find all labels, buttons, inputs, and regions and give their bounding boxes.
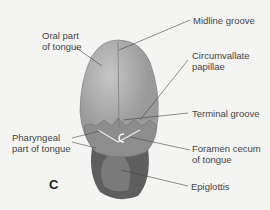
label-midline-groove: Midline groove: [193, 15, 255, 26]
label-circumvallate-line2: papillae: [192, 61, 250, 72]
label-pharyngeal-line2: part of tongue: [12, 143, 71, 154]
label-pharyngeal-line1: Pharyngeal: [12, 132, 71, 143]
label-terminal-groove: Terminal groove: [192, 108, 260, 119]
label-oral-part-line2: of tongue: [42, 41, 82, 52]
label-foramen-cecum: Foramen cecum of tongue: [192, 143, 261, 165]
label-pharyngeal-part: Pharyngeal part of tongue: [12, 132, 71, 154]
label-circumvallate-line1: Circumvallate: [192, 50, 250, 61]
label-oral-part: Oral part of tongue: [42, 30, 82, 52]
tongue-illustration: [0, 0, 270, 210]
label-epiglottis: Epiglottis: [191, 181, 230, 192]
label-oral-part-line1: Oral part: [42, 30, 82, 41]
label-circumvallate-papillae: Circumvallate papillae: [192, 50, 250, 72]
panel-letter: C: [49, 177, 58, 192]
label-foramen-line1: Foramen cecum: [192, 143, 261, 154]
label-foramen-line2: of tongue: [192, 154, 261, 165]
